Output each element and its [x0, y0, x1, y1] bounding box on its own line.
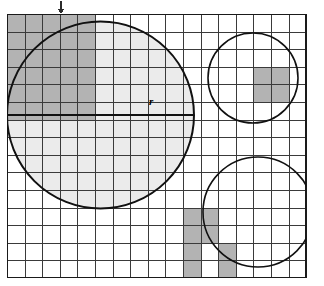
radius-label: r — [149, 96, 153, 107]
grid-circles-figure: r — [0, 0, 324, 286]
figure-canvas — [0, 0, 324, 286]
